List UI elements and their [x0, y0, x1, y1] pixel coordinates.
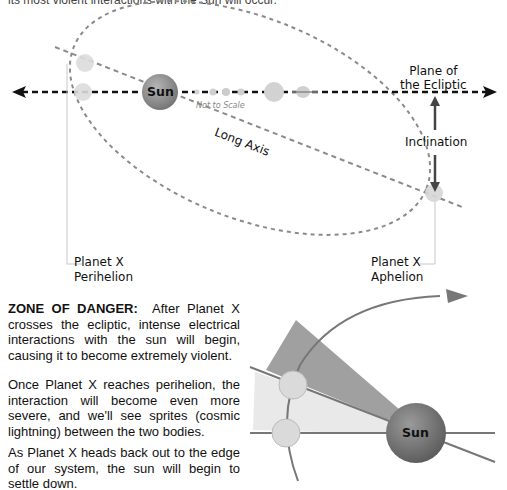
zone-sun-label: Sun: [402, 425, 429, 441]
planet-x-perihelion-lower: [74, 83, 92, 101]
settle-paragraph: As Planet X heads back out to the edge o…: [8, 445, 240, 490]
perihelion-label: Planet X Perihelion: [74, 255, 133, 285]
perihelion-paragraph: Once Planet X reaches perihelion, the in…: [8, 377, 240, 439]
planet-x-position-lower: [272, 419, 300, 447]
zone-of-danger-heading: ZONE OF DANGER:: [8, 301, 138, 316]
aphelion-label: Planet X Aphelion: [371, 255, 423, 285]
plane-of-ecliptic-label: Plane of the Ecliptic: [400, 64, 467, 92]
planet-x-perihelion-upper: [76, 54, 94, 72]
not-to-scale-label: Not to Scale: [196, 98, 245, 114]
aphelion-bracket: [420, 195, 435, 264]
sun-label: Sun: [147, 84, 174, 100]
zone-of-danger-paragraph: ZONE OF DANGER: After Planet X crosses t…: [8, 301, 240, 363]
inclination-label: Inclination: [405, 134, 467, 150]
zone-diagram: [250, 289, 495, 481]
planet-x-position-upper: [279, 371, 307, 399]
orbit-arrow-icon: [446, 289, 468, 303]
